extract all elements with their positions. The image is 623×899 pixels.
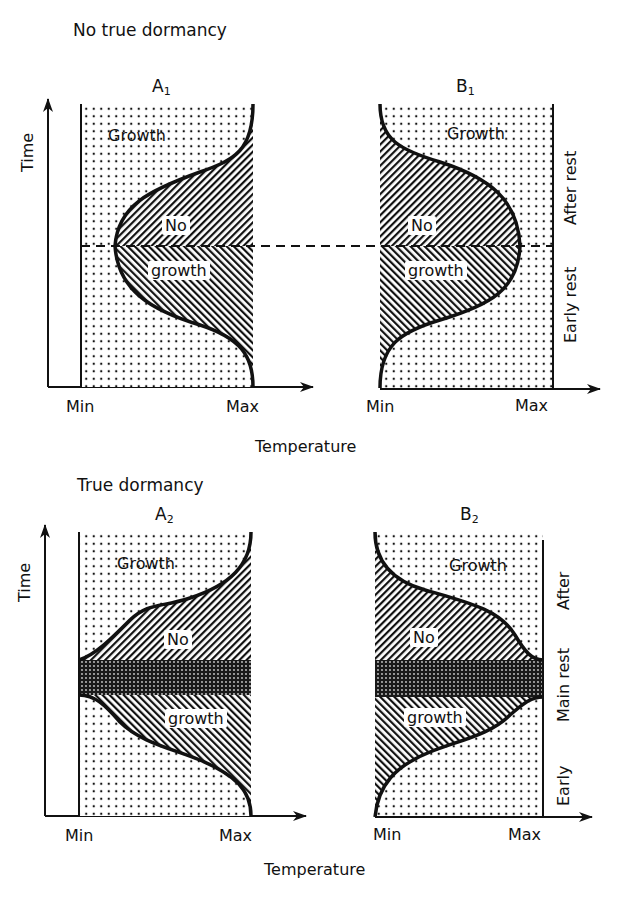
panel-letter: B xyxy=(460,504,472,524)
section-title-true-dormancy: True dormancy xyxy=(77,475,204,495)
region-label-growth-b2: Growth xyxy=(446,556,510,575)
section-title-no-true-dormancy: No true dormancy xyxy=(73,20,227,40)
panel-subscript: 1 xyxy=(468,85,475,98)
region-label-no-b1: No xyxy=(408,216,436,235)
main-rest-band xyxy=(79,660,251,695)
panel-subscript: 2 xyxy=(472,513,479,526)
region-label-growth-b1: Growth xyxy=(444,124,508,143)
x-tick-min-b2: Min xyxy=(373,825,401,844)
panel-subscript: 2 xyxy=(167,513,174,526)
region-label-nogrowth-b1: growth xyxy=(405,261,467,280)
phase-label-after-rest: After rest xyxy=(561,151,580,225)
region-label-nogrowth-b2: growth xyxy=(404,708,466,727)
panel-letter: A xyxy=(155,504,167,524)
y-axis-title-time: Time xyxy=(15,563,34,602)
x-tick-max-a2: Max xyxy=(219,826,252,845)
panel-subscript: 1 xyxy=(164,85,171,98)
x-axis-title-temperature: Temperature xyxy=(255,437,356,456)
x-axis-title-temperature: Temperature xyxy=(264,860,365,879)
x-tick-min-b1: Min xyxy=(366,397,394,416)
panel-label-a1: A1 xyxy=(152,76,171,98)
region-label-growth-a2: Growth xyxy=(114,554,178,573)
main-rest-band xyxy=(375,660,543,697)
x-tick-max-b2: Max xyxy=(508,825,541,844)
region-label-no-b2: No xyxy=(410,628,438,647)
phase-label-early-rest: Early rest xyxy=(561,267,580,343)
x-tick-max-b1: Max xyxy=(515,396,548,415)
phase-label-early: Early xyxy=(554,766,573,806)
panel-letter: A xyxy=(152,76,164,96)
panel-label-a2: A2 xyxy=(155,504,174,526)
phase-label-after: After xyxy=(554,572,573,610)
region-label-growth-a1: Growth xyxy=(105,126,169,145)
panel-label-b2: B2 xyxy=(460,504,479,526)
panel-letter: B xyxy=(456,76,468,96)
x-tick-min-a1: Min xyxy=(66,397,94,416)
panel-label-b1: B1 xyxy=(456,76,475,98)
y-axis-title-time: Time xyxy=(18,133,37,172)
panel-a1 xyxy=(48,99,313,387)
region-label-no-a1: No xyxy=(162,216,190,235)
x-tick-min-a2: Min xyxy=(65,826,93,845)
region-label-nogrowth-a1: growth xyxy=(148,261,210,280)
region-label-nogrowth-a2: growth xyxy=(165,709,227,728)
region-label-no-a2: No xyxy=(164,630,192,649)
x-tick-max-a1: Max xyxy=(226,397,259,416)
phase-label-main-rest: Main rest xyxy=(554,648,573,722)
